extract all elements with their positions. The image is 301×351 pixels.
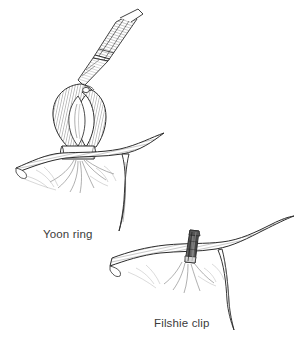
- canvas-background: [0, 0, 301, 351]
- caption-filshie-clip: Filshie clip: [154, 317, 209, 330]
- caption-yoon-ring: Yoon ring: [43, 228, 93, 241]
- figure-canvas: [0, 0, 301, 351]
- illustration-figure: Yoon ring Filshie clip: [0, 0, 301, 351]
